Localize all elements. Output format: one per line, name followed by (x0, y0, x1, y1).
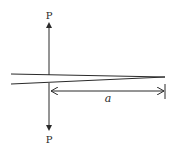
load-label-bottom: P (46, 134, 53, 145)
upper-beam-line (11, 74, 165, 77)
crack-length-label: a (105, 92, 112, 105)
load-label-top: P (46, 10, 53, 21)
dcb-diagram: P P a (0, 0, 173, 152)
lower-beam-line (11, 77, 165, 84)
diagram-svg: P P a (0, 0, 173, 152)
